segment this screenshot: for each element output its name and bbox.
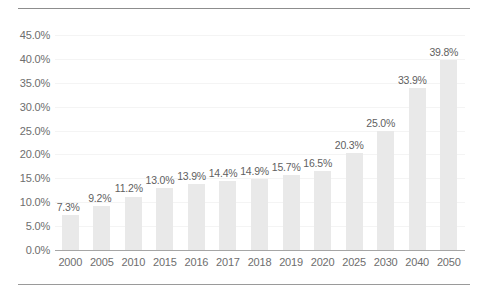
bar-value-label: 15.7% [268, 162, 301, 173]
x-axis-tick-label: 2017 [212, 256, 244, 268]
x-axis-tick-label: 2025 [338, 256, 370, 268]
bar-value-label: 13.9% [173, 171, 206, 182]
gridline [55, 35, 465, 36]
gridline [55, 131, 465, 132]
bar-value-label: 14.4% [204, 168, 237, 179]
y-axis-tick-label: 5.0% [0, 221, 50, 232]
x-axis-tick-label: 2005 [86, 256, 118, 268]
bar[interactable] [283, 175, 300, 250]
bar-value-label: 11.2% [110, 183, 143, 194]
bottom-divider-rule [18, 284, 470, 285]
bar[interactable] [156, 188, 173, 250]
x-axis-tick-label: 2018 [244, 256, 276, 268]
gridline [55, 154, 465, 155]
y-axis-tick-label: 0.0% [0, 245, 50, 256]
x-axis-tick-label: 2016 [181, 256, 213, 268]
bar[interactable] [219, 181, 236, 250]
bar[interactable] [93, 206, 110, 250]
y-axis-tick-label: 45.0% [0, 30, 50, 41]
bar[interactable] [377, 131, 394, 250]
bar[interactable] [62, 215, 79, 250]
bar-value-label: 14.9% [236, 166, 269, 177]
x-axis-tick-label: 2019 [275, 256, 307, 268]
bar[interactable] [125, 197, 142, 251]
x-axis-tick-label: 2030 [370, 256, 402, 268]
bar-value-label: 7.3% [47, 202, 80, 213]
bar-value-label: 20.3% [331, 140, 364, 151]
bar-value-label: 9.2% [78, 193, 111, 204]
bar[interactable] [314, 171, 331, 250]
bar-value-label: 25.0% [362, 118, 395, 129]
x-axis-tick-label: 2050 [433, 256, 465, 268]
x-axis-tick-label: 2010 [118, 256, 150, 268]
y-axis-tick-label: 35.0% [0, 78, 50, 89]
gridline [55, 59, 465, 60]
y-axis-tick-label: 30.0% [0, 102, 50, 113]
y-axis-tick-label: 15.0% [0, 173, 50, 184]
bar[interactable] [409, 88, 426, 250]
y-axis-tick-label: 25.0% [0, 126, 50, 137]
bar[interactable] [251, 179, 268, 250]
bar-value-label: 33.9% [394, 75, 427, 86]
bar[interactable] [440, 60, 457, 250]
bar-value-label: 39.8% [425, 47, 458, 58]
bar-value-label: 13.0% [141, 175, 174, 186]
y-axis-tick-label: 40.0% [0, 54, 50, 65]
bar[interactable] [188, 184, 205, 250]
x-axis-tick-label: 2040 [401, 256, 433, 268]
y-axis-tick-label: 10.0% [0, 197, 50, 208]
x-axis-line [55, 250, 465, 251]
x-axis-tick-label: 2015 [149, 256, 181, 268]
x-axis-tick-label: 2000 [55, 256, 87, 268]
bar-value-label: 16.5% [299, 158, 332, 169]
gridline [55, 107, 465, 108]
bar[interactable] [346, 153, 363, 250]
top-divider-rule [18, 8, 470, 9]
bar-chart: 0.0%5.0%10.0%15.0%20.0%25.0%30.0%35.0%40… [0, 0, 483, 296]
y-axis-tick-label: 20.0% [0, 149, 50, 160]
x-axis-tick-label: 2020 [307, 256, 339, 268]
